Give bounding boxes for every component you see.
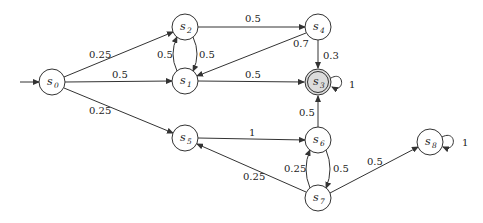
svg-text:5: 5 bbox=[187, 137, 192, 146]
label-s3-s3: 1 bbox=[349, 79, 355, 90]
svg-text:s: s bbox=[180, 131, 186, 144]
svg-text:s: s bbox=[425, 135, 431, 148]
edge-s3-s3 bbox=[331, 76, 342, 88]
edge-s5-s6 bbox=[198, 138, 305, 140]
label-s1-s2: 0.5 bbox=[157, 49, 173, 60]
svg-text:6: 6 bbox=[320, 139, 325, 148]
label-s0-s2: 0.25 bbox=[89, 49, 111, 60]
svg-text:s: s bbox=[47, 75, 53, 88]
state-s5: s 5 bbox=[172, 125, 198, 151]
state-s6: s 6 bbox=[305, 127, 331, 153]
svg-text:4: 4 bbox=[319, 26, 325, 35]
edge-s6-s7 bbox=[326, 150, 330, 188]
state-s0: s 0 bbox=[39, 69, 65, 95]
label-s7-s8: 0.5 bbox=[367, 156, 383, 167]
edge-s1-s2 bbox=[173, 37, 177, 71]
label-s7-s6: 0.25 bbox=[284, 163, 306, 174]
label-s4-s1: 0.7 bbox=[293, 38, 309, 49]
svg-text:2: 2 bbox=[186, 26, 192, 35]
state-s4: s 4 bbox=[305, 14, 331, 40]
edge-s2-s1 bbox=[193, 37, 197, 71]
label-s0-s1: 0.5 bbox=[112, 69, 128, 80]
label-s1-s3: 0.5 bbox=[245, 69, 261, 80]
label-s7-s5: 0.25 bbox=[243, 171, 265, 182]
svg-text:s: s bbox=[180, 74, 186, 87]
svg-text:1: 1 bbox=[187, 80, 192, 89]
svg-text:s: s bbox=[313, 75, 319, 88]
edge-s8-s8 bbox=[442, 135, 453, 148]
state-s8: s 8 bbox=[417, 129, 443, 155]
label-s8-s8: 1 bbox=[462, 137, 468, 148]
label-s0-s5: 0.25 bbox=[89, 105, 111, 116]
label-s2-s1: 0.5 bbox=[199, 49, 215, 60]
state-s7: s 7 bbox=[305, 185, 331, 211]
state-s3-accepting: s 3 bbox=[305, 69, 331, 95]
svg-text:7: 7 bbox=[320, 197, 325, 206]
edge-s1-s3 bbox=[198, 81, 304, 82]
label-s4-s3: 0.3 bbox=[323, 50, 339, 61]
edge-s7-s6 bbox=[306, 150, 310, 188]
label-s5-s6: 1 bbox=[249, 127, 255, 138]
label-s6-s3: 0.5 bbox=[299, 107, 315, 118]
svg-text:s: s bbox=[313, 133, 319, 146]
markov-chain-diagram: s 0 s 1 s 2 s 3 s 4 s 5 bbox=[0, 0, 483, 223]
svg-text:3: 3 bbox=[320, 81, 325, 90]
label-s2-s4: 0.5 bbox=[245, 13, 261, 24]
state-s2: s 2 bbox=[172, 14, 198, 40]
label-s6-s7: 0.5 bbox=[333, 163, 349, 174]
state-s1: s 1 bbox=[172, 68, 198, 94]
svg-text:0: 0 bbox=[54, 81, 59, 90]
svg-text:8: 8 bbox=[432, 141, 437, 150]
svg-text:s: s bbox=[313, 191, 319, 204]
edge-s0-s1 bbox=[65, 81, 172, 82]
svg-text:s: s bbox=[313, 20, 319, 33]
edge-s0-s5 bbox=[64, 88, 173, 133]
svg-text:s: s bbox=[180, 20, 186, 33]
